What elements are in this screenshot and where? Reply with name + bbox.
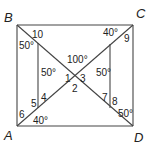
geometry-diagram: B C A D 1050°50°100°40°950°12345640°7850…: [0, 0, 151, 148]
angle-3: 3: [80, 73, 86, 84]
angle-8: 8: [112, 96, 118, 107]
angle-10: 10: [32, 29, 44, 40]
vertex-C: C: [136, 6, 146, 21]
angle-2: 2: [72, 83, 78, 94]
vertex-A: A: [3, 128, 13, 143]
angle-5: 5: [31, 98, 37, 109]
angle-left-50: 50°: [41, 67, 56, 78]
angle-4: 4: [41, 92, 47, 103]
vertex-B: B: [4, 10, 13, 25]
angle-6: 6: [19, 109, 25, 120]
angle-D-50: 50°: [118, 108, 133, 119]
angle-100: 100°: [67, 54, 88, 65]
angle-1: 1: [65, 73, 71, 84]
angle-9: 9: [124, 33, 130, 44]
vertex-D: D: [134, 130, 143, 145]
angle-right-50: 50°: [96, 67, 111, 78]
angle-B-50: 50°: [19, 40, 34, 51]
angle-A-40: 40°: [33, 115, 48, 126]
angle-C-40: 40°: [103, 27, 118, 38]
angle-7: 7: [102, 92, 108, 103]
segments: [17, 25, 133, 126]
